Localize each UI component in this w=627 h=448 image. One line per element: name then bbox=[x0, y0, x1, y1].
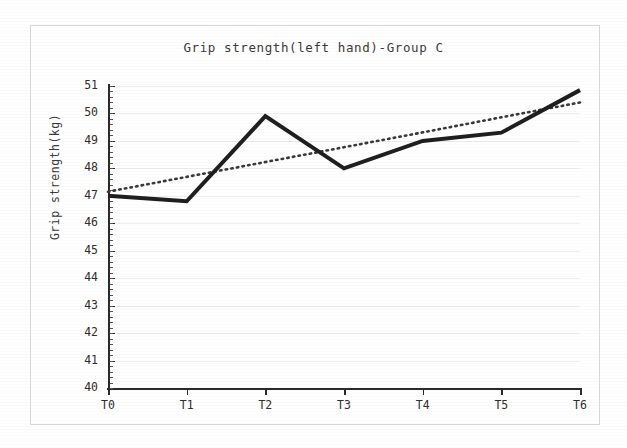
grip-strength-series bbox=[108, 90, 580, 201]
series-layer bbox=[0, 0, 627, 448]
trendline-series bbox=[108, 102, 580, 191]
chart-figure: Grip strength(left hand)-Group C Grip st… bbox=[0, 0, 627, 448]
